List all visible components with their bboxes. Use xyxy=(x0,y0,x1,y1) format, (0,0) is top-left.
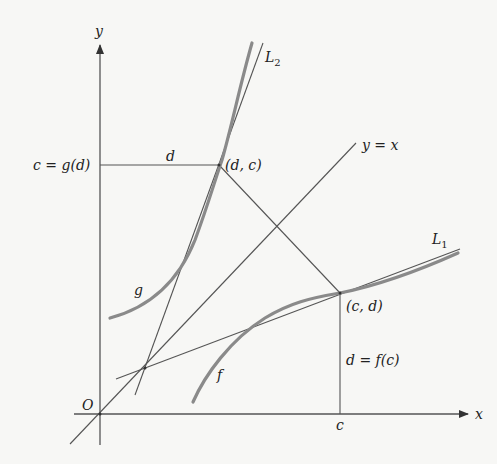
x-tick-label: c xyxy=(336,417,344,433)
horizontal-segment-label: d xyxy=(166,148,175,164)
diagram-canvas: y x O c = g(d) d (d, c) (c, d) d = f(c) … xyxy=(0,0,497,464)
y-axis-label: y xyxy=(94,23,104,39)
point-cd-marker xyxy=(339,292,342,295)
reflection-segment xyxy=(219,165,340,293)
point-dc-marker xyxy=(218,164,221,167)
x-axis-label: x xyxy=(475,406,483,422)
identity-line-label: y = x xyxy=(361,137,399,153)
point-cd-label: (c, d) xyxy=(346,298,383,314)
l2-label: L2 xyxy=(264,49,281,68)
origin-marker xyxy=(99,413,102,416)
intersection-marker xyxy=(144,367,147,370)
curve-f xyxy=(193,253,458,402)
y-tick-label: c = g(d) xyxy=(33,157,90,173)
vertical-segment-label: d = f(c) xyxy=(346,352,400,368)
curve-g-label: g xyxy=(134,282,143,298)
l1-label: L1 xyxy=(431,231,448,250)
tangent-line-l1 xyxy=(116,249,460,379)
tangent-line-l2 xyxy=(135,43,263,395)
point-dc-label: (d, c) xyxy=(225,157,262,173)
origin-label: O xyxy=(82,397,94,413)
curve-g xyxy=(110,43,252,318)
curve-f-label: f xyxy=(216,367,225,383)
